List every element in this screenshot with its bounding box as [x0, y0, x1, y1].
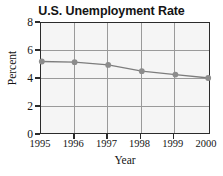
chart-figure: U.S. Unemployment Rate Percent 8 6 4 2 0 — [0, 0, 223, 176]
y-tick-4: 4 — [0, 72, 33, 84]
x-tick-2000: 2000 — [189, 138, 223, 149]
y-tick-8: 8 — [0, 16, 33, 28]
y-tick-label: 4 — [5, 72, 33, 84]
y-tick-label: 6 — [5, 44, 33, 56]
data-point-1995 — [39, 59, 45, 65]
y-tick-6: 6 — [0, 44, 33, 56]
y-tick-2: 2 — [0, 100, 33, 112]
chart-title: U.S. Unemployment Rate — [0, 4, 223, 18]
x-axis-label: Year — [40, 154, 210, 166]
x-tick-1997: 1997 — [89, 138, 123, 149]
data-point-1996 — [72, 59, 78, 65]
x-tick-1996: 1996 — [56, 138, 90, 149]
data-point-1997 — [105, 62, 111, 68]
data-point-1998 — [139, 68, 145, 74]
x-tick-1999: 1999 — [156, 138, 190, 149]
y-tick-label: 8 — [5, 16, 33, 28]
series-line — [41, 62, 209, 79]
data-series-unemployment — [41, 23, 209, 133]
x-tick-1995: 1995 — [23, 138, 57, 149]
x-tick-1998: 1998 — [123, 138, 157, 149]
data-point-2000 — [205, 75, 211, 81]
plot-area — [40, 22, 210, 134]
data-point-1999 — [172, 72, 178, 78]
y-tick-label: 2 — [5, 100, 33, 112]
